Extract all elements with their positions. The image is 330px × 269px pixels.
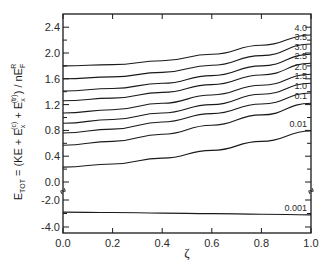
y-tick-label: -4.0 bbox=[41, 221, 60, 233]
x-tick-label: 0.8 bbox=[254, 237, 269, 249]
curve-3.0 bbox=[63, 54, 311, 91]
curve-label: 0.01 bbox=[289, 119, 307, 129]
x-tick-label: 0.0 bbox=[55, 237, 70, 249]
y-tick-label: 2.4 bbox=[45, 21, 60, 33]
curve-label: 1.5 bbox=[294, 71, 307, 81]
x-tick-label: 0.2 bbox=[105, 237, 120, 249]
x-tick-label: 0.4 bbox=[155, 237, 170, 249]
curve-label: 1.0 bbox=[294, 81, 307, 91]
curve-0.1 bbox=[63, 103, 311, 145]
curve-label: 2.5 bbox=[294, 51, 307, 61]
y-tick-label: 0.8 bbox=[45, 124, 60, 136]
chart: 0.00.20.40.60.81.02.42.01.61.20.80.40.0-… bbox=[0, 0, 330, 269]
y-tick-label: 1.2 bbox=[45, 99, 60, 111]
curve-0.001 bbox=[63, 212, 311, 215]
curve-label: 0.001 bbox=[284, 203, 307, 213]
curve-label: 0.1 bbox=[294, 91, 307, 101]
curve-labels: 4.03.53.02.52.01.51.00.10.010.001 bbox=[284, 23, 307, 213]
y-tick-label: 2.0 bbox=[45, 47, 60, 59]
data-curves bbox=[63, 35, 311, 215]
y-tick-label: 1.6 bbox=[45, 73, 60, 85]
y-tick-label: -2.0 bbox=[41, 194, 60, 206]
plot-frame bbox=[63, 14, 311, 233]
x-tick-label: 0.6 bbox=[204, 237, 219, 249]
curve-4.0 bbox=[63, 35, 311, 66]
y-tick-label: 0.0 bbox=[45, 176, 60, 188]
y-tick-label: 0.4 bbox=[45, 150, 60, 162]
curve-0.01 bbox=[63, 131, 311, 167]
y-axis-title: ETOT = (KE + Ex(c) + Ex(tr)) / nEFR bbox=[10, 64, 26, 201]
axis-break-icon bbox=[60, 187, 314, 194]
svg-text:ETOT = (KE + Ex(c) + Ex(tr)) /: ETOT = (KE + Ex(c) + Ex(tr)) / nEFR bbox=[10, 64, 26, 201]
x-axis-title: ζ bbox=[184, 245, 190, 260]
curve-label: 3.5 bbox=[294, 32, 307, 42]
x-tick-label: 1.0 bbox=[303, 237, 318, 249]
